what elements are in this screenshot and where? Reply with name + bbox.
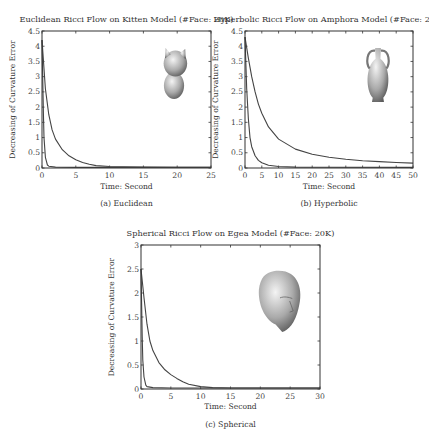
x-tick-label: 30 [315, 392, 325, 401]
egea-head-icon [259, 271, 301, 332]
y-tick-label: 1.5 [127, 313, 139, 322]
chart-c-spherical: Spherical Ricci Flow on Egea Model (#Fac… [0, 0, 429, 444]
x-tick-label: 20 [255, 392, 265, 401]
x-tick-label: 25 [285, 392, 295, 401]
y-tick-label: 0.5 [127, 361, 139, 370]
y-tick-label: 3 [134, 241, 139, 250]
inset-3d-model [259, 271, 301, 332]
y-tick-label: 1 [134, 337, 139, 346]
x-tick-label: 5 [168, 392, 173, 401]
chart-title: Spherical Ricci Flow on Egea Model (#Fac… [127, 228, 335, 238]
y-axis-label: Decreasing of Curvature Error [107, 257, 116, 376]
x-tick-label: 0 [139, 392, 144, 401]
chart-c-svg: Spherical Ricci Flow on Egea Model (#Fac… [0, 0, 429, 444]
x-tick-label: 15 [226, 392, 236, 401]
y-tick-label: 2 [134, 289, 139, 298]
x-tick-label: 10 [196, 392, 206, 401]
y-tick-label: 2.5 [127, 265, 139, 274]
figure-caption: (c) Spherical [205, 420, 256, 429]
y-tick-label: 0 [134, 385, 139, 394]
x-axis-label: Time: Second [204, 402, 257, 411]
